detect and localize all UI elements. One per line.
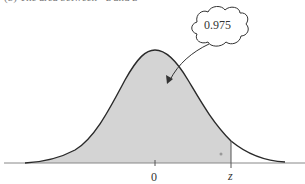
callout-label: 0.975: [204, 18, 231, 32]
shaded-area: [25, 50, 231, 163]
tick-label-zero: 0: [151, 170, 157, 184]
dot-marker: [220, 153, 223, 156]
tick-label-z: z: [227, 169, 233, 183]
normal-curve-chart: 0 z 0.975: [0, 0, 305, 184]
